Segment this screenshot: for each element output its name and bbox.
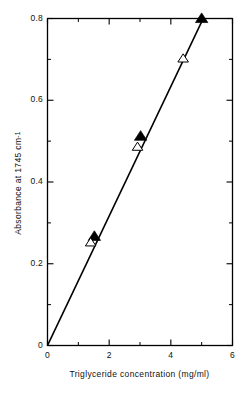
regression-line-segment [48,19,204,346]
chart-figure: Absorbance at 1745 cm-1 Triglyceride con… [0,0,252,393]
data-point-filled-triangle [134,131,146,141]
plot-frame-rect [48,19,233,346]
data-point-filled-triangle [195,13,207,23]
data-point-open-triangle [132,142,143,150]
plot-frame [48,19,233,346]
regression-line [48,19,204,346]
plot-canvas [0,0,252,393]
axis-ticks [48,19,233,346]
data-point-open-triangle [178,54,189,62]
